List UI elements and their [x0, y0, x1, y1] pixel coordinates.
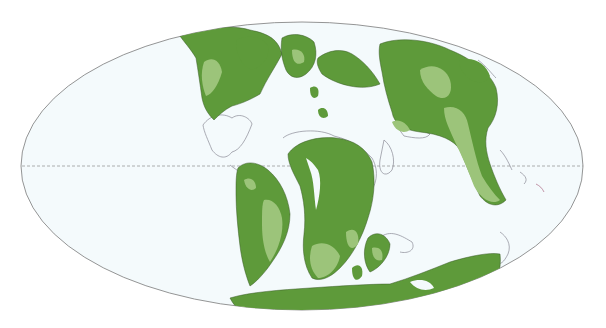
- paleogeographic-map: [0, 0, 606, 328]
